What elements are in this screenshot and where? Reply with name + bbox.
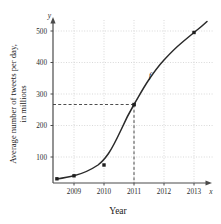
ytick-label-500: 500 [36, 28, 47, 36]
xtick-label-2013: 2013 [187, 188, 202, 196]
xtick-label-2011: 2011 [127, 188, 142, 196]
y-axis-variable-label: y [47, 11, 52, 20]
y-axis-title-line1: Average number of tweets per day, [8, 44, 18, 164]
xtick-label-2012: 2012 [157, 188, 172, 196]
data-point-2009 [72, 174, 75, 177]
y-axis-title-line2: in millions [18, 85, 28, 123]
ytick-label-300: 300 [36, 91, 47, 99]
xtick-label-2009: 2009 [67, 188, 82, 196]
xtick-label-2010: 2010 [97, 188, 112, 196]
data-point-2010 [102, 163, 105, 166]
ytick-label-200: 200 [36, 122, 47, 130]
ytick-label-400: 400 [36, 59, 47, 67]
data-point-2011-highlight [132, 103, 136, 107]
x-axis-title: Year [109, 206, 127, 216]
x-axis-variable-label: x [208, 187, 213, 196]
data-point-2008-5 [55, 177, 58, 180]
tweets-growth-chart: 100 200 300 400 500 2009 2010 2011 2012 … [0, 0, 221, 224]
ytick-label-100: 100 [36, 154, 47, 162]
data-point-2013 [192, 31, 195, 34]
chart-figure: 100 200 300 400 500 2009 2010 2011 2012 … [0, 0, 221, 224]
